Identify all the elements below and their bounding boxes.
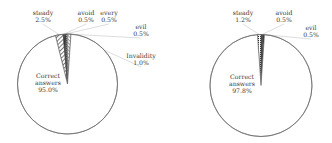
slice-percentage: 2.5% [35, 16, 51, 23]
pie-chart-left: steady2.5%avoid0.5%every0.5%evil0.5%Inva… [18, 9, 157, 134]
slice-percentage: 95.0% [38, 86, 58, 93]
slice-label: answers [229, 80, 255, 87]
leader-line [243, 24, 259, 35]
leader-line [65, 24, 109, 34]
slice-label: avoid [78, 9, 95, 16]
pie-chart-right: steady1.2%avoid0.5%evil0.5%Correctanswer… [210, 9, 319, 137]
chart-figure: steady2.5%avoid0.5%every0.5%evil0.5%Inva… [0, 0, 332, 143]
slice-percentage: 0.5% [303, 31, 319, 38]
slice-percentage: 0.5% [276, 16, 292, 23]
pie-charts-canvas: steady2.5%avoid0.5%every0.5%evil0.5%Inva… [0, 0, 332, 143]
slice-percentage: 0.5% [101, 16, 117, 23]
slice-label: evil [135, 23, 146, 30]
slice-percentage: 1.2% [235, 16, 251, 23]
leader-line [262, 24, 284, 35]
slice-percentage: 1.0% [133, 59, 149, 66]
slice-label: Correct [36, 72, 61, 79]
slice-label: Correct [230, 73, 255, 80]
leader-line [43, 24, 59, 35]
slice-percentage: 0.5% [78, 16, 94, 23]
slice-percentage: 0.5% [133, 30, 149, 37]
slice-percentage: 97.8% [232, 87, 252, 94]
slice-label: avoid [276, 9, 293, 16]
slice-label: answers [35, 79, 61, 86]
slice-label: evil [305, 24, 316, 31]
leader-line [64, 24, 86, 34]
